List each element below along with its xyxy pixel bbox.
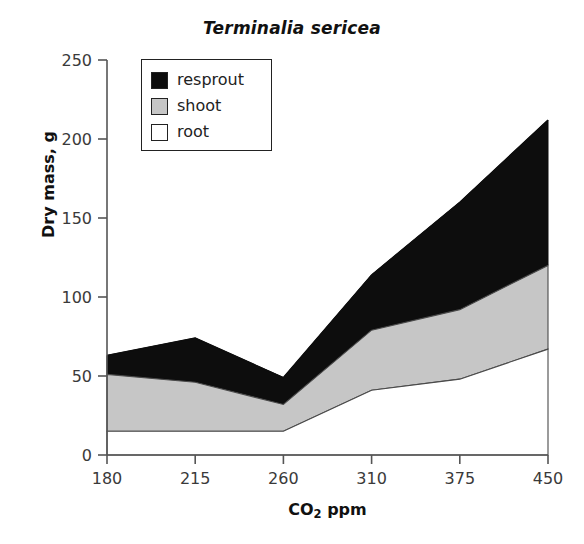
x-tick-label: 450 xyxy=(533,469,564,488)
x-tick-label: 310 xyxy=(356,469,387,488)
legend-swatch-shoot xyxy=(151,98,168,115)
x-axis-title-prefix: CO xyxy=(288,500,313,519)
y-axis-title: Dry mass, g xyxy=(39,85,58,285)
x-tick-label: 215 xyxy=(180,469,211,488)
x-axis-title-subscript: 2 xyxy=(314,507,322,521)
y-tick-marks xyxy=(98,60,107,455)
y-tick-label: 0 xyxy=(30,446,92,465)
x-tick-label: 260 xyxy=(268,469,299,488)
legend-label-resprout: resprout xyxy=(177,72,244,88)
legend-item-shoot: shoot xyxy=(151,93,271,119)
x-tick-label: 180 xyxy=(92,469,123,488)
x-axis-title: CO2 ppm xyxy=(107,500,548,521)
legend-swatch-resprout xyxy=(151,72,168,89)
x-axis-title-suffix: ppm xyxy=(322,500,367,519)
legend-label-root: root xyxy=(177,124,209,140)
y-tick-label: 100 xyxy=(30,288,92,307)
x-tick-marks xyxy=(107,455,548,464)
legend-swatch-root xyxy=(151,124,168,141)
legend-label-shoot: shoot xyxy=(177,98,221,114)
legend-item-root: root xyxy=(151,119,271,145)
legend: resprout shoot root xyxy=(141,59,272,151)
area-layers xyxy=(107,120,548,455)
figure-container: Terminalia sericea 050100150200250 18021… xyxy=(0,0,584,544)
plot-area: 050100150200250 180215260310375450 Dry m… xyxy=(0,0,584,544)
y-tick-label: 50 xyxy=(30,367,92,386)
y-tick-label: 250 xyxy=(30,51,92,70)
legend-item-resprout: resprout xyxy=(151,67,271,93)
x-tick-label: 375 xyxy=(445,469,476,488)
